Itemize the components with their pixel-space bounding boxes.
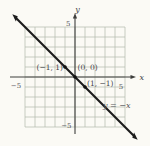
x-tick-label-left: −5 [11,82,21,90]
line-arrowhead-upper-left [12,14,17,21]
point-dot-0-0 [73,75,77,79]
point-dot-neg1-1 [63,65,67,69]
y-tick-label-bottom: −5 [61,122,71,130]
graph-figure: (−1, 1) (0, 0) (1, −1) y = −x −5 5 5 −5 … [0,0,150,146]
line-equation-label: y = −x [102,101,131,110]
line-arrowhead-lower-right [132,132,137,139]
y-axis-label: y [74,5,80,14]
point-label-0-0: (0, 0) [78,63,98,72]
coordinate-plane-svg: (−1, 1) (0, 0) (1, −1) y = −x −5 5 5 −5 … [0,0,150,146]
point-label-1-neg1: (1, −1) [87,79,114,88]
x-axis-arrowhead [131,75,137,79]
x-axis-label: x [140,73,145,82]
point-label-neg1-1: (−1, 1) [37,63,64,72]
x-tick-label-right: 5 [119,83,123,91]
y-tick-label-top: 5 [66,20,70,28]
